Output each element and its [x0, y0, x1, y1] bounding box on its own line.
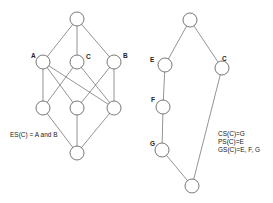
- diagram: A C B ES(C) = A and B E C F G CS(C)=G PS…: [0, 0, 273, 203]
- node-label-a: A: [31, 52, 36, 59]
- node-label-f: F: [151, 96, 155, 103]
- node-label-c-left: C: [86, 53, 91, 60]
- right-edges: [162, 20, 222, 186]
- ps-annotation: PS(C)=E: [218, 138, 244, 145]
- node-label-g: G: [150, 140, 155, 147]
- es-caption: ES(C) = A and B: [10, 131, 58, 138]
- cs-annotation: CS(C)=G: [218, 130, 245, 137]
- node-label-c-right: C: [222, 55, 227, 62]
- node-label-e: E: [150, 56, 154, 63]
- lattice-graphs: [0, 0, 273, 203]
- right-nodes: [155, 13, 229, 193]
- gs-annotation: GS(C)=E, F, G: [218, 146, 260, 153]
- node-label-b: B: [123, 52, 128, 59]
